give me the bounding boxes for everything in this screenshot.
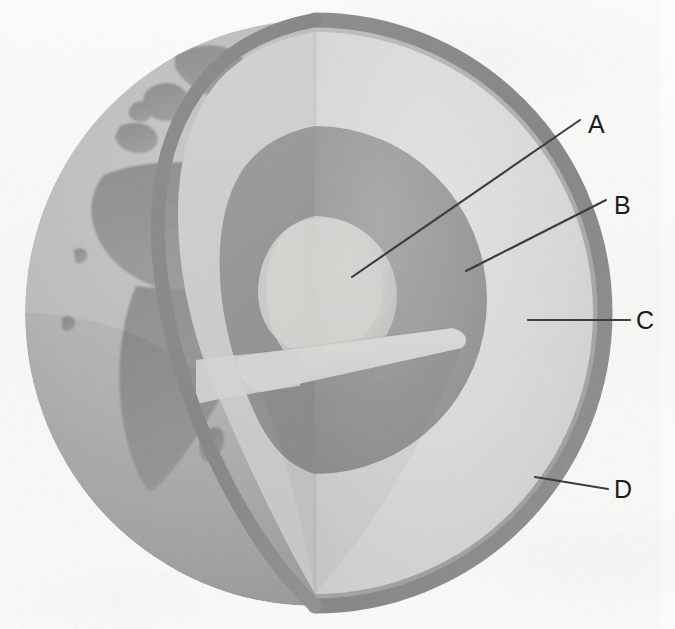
label-a: A <box>588 112 605 137</box>
label-c: C <box>636 308 655 333</box>
diagram-page: A B C D <box>0 0 675 629</box>
label-b: B <box>614 193 631 218</box>
earth-cutaway-illustration <box>0 0 675 629</box>
label-d: D <box>614 477 633 502</box>
